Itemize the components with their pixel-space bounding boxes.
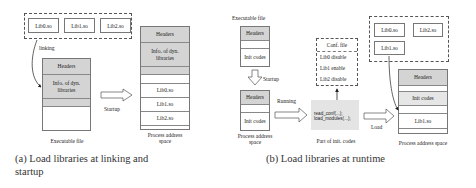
arrows-layer	[0, 0, 476, 188]
linking-arrow	[32, 40, 41, 87]
load-arrow	[364, 109, 394, 123]
lib1-load-arrow	[389, 56, 398, 110]
running-arrow	[275, 108, 307, 122]
startup-arrow-a	[101, 89, 132, 101]
startup-arrow-b	[248, 70, 262, 85]
